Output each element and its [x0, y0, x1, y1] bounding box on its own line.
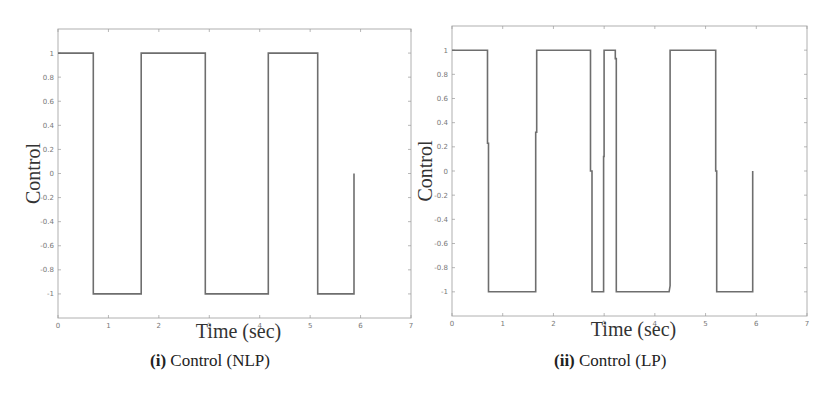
caption-text: Control (NLP) [170, 351, 270, 370]
y-tick-label: 0 [444, 168, 448, 176]
chart-panel-lp: 0123456710.80.60.40.20-0.2-0.4-0.6-0.8-1… [418, 0, 835, 393]
y-tick-label: 0.6 [43, 98, 55, 106]
x-tick-label: 1 [500, 320, 504, 328]
chart-panel-nlp: 0123456710.80.60.40.20-0.2-0.4-0.6-0.8-1… [0, 0, 418, 393]
x-tick-label: 1 [106, 322, 110, 330]
y-tick-label: 0.6 [437, 95, 449, 103]
x-tick-label: 0 [56, 322, 60, 330]
x-tick-label: 6 [358, 322, 363, 330]
y-tick-label: 0 [50, 170, 54, 178]
caption-text: Control (LP) [579, 351, 666, 370]
x-tick-label: 7 [409, 322, 413, 330]
caption-lp: (ii) Control (LP) [554, 351, 666, 371]
y-tick-label: 0.2 [437, 143, 448, 151]
y-tick-label: 1 [50, 50, 54, 58]
x-tick-label: 6 [754, 320, 759, 328]
x-tick-label: 2 [157, 322, 161, 330]
chart-nlp: 0123456710.80.60.40.20-0.2-0.4-0.6-0.8-1… [0, 0, 418, 393]
x-tick-label: 0 [450, 320, 454, 328]
y-tick-label: -0.6 [434, 240, 448, 248]
y-tick-label: -0.6 [40, 242, 54, 250]
y-axis-title: Control [22, 143, 44, 205]
x-axis-title: Time (sec) [591, 318, 676, 341]
y-tick-label: 0.8 [43, 74, 54, 82]
y-tick-label: -0.8 [40, 266, 54, 274]
x-tick-label: 5 [703, 320, 707, 328]
y-tick-label: 0.8 [437, 71, 448, 79]
y-tick-label: -1 [47, 290, 54, 298]
y-axis-title: Control [414, 140, 436, 202]
y-tick-label: 0.2 [43, 146, 54, 154]
x-tick-label: 5 [308, 322, 312, 330]
x-tick-label: 7 [805, 320, 809, 328]
y-tick-label: 0.4 [437, 119, 449, 127]
caption-prefix: (ii) [554, 351, 575, 370]
y-tick-label: 0.4 [43, 122, 55, 130]
caption-nlp: (i) Control (NLP) [150, 351, 270, 371]
chart-lp: 0123456710.80.60.40.20-0.2-0.4-0.6-0.8-1… [418, 0, 835, 393]
y-tick-label: -0.8 [434, 264, 448, 272]
plot-area [58, 29, 411, 318]
y-tick-label: -0.4 [434, 216, 448, 224]
y-tick-label: -1 [441, 288, 448, 296]
caption-prefix: (i) [150, 351, 166, 370]
y-tick-label: -0.2 [434, 192, 448, 200]
plot-area [452, 26, 807, 316]
y-tick-label: 1 [444, 47, 448, 55]
x-axis-title: Time (sec) [196, 320, 281, 343]
control-series-line [452, 50, 753, 292]
y-tick-label: -0.4 [40, 218, 54, 226]
control-series-line [58, 53, 354, 294]
x-tick-label: 2 [551, 320, 555, 328]
